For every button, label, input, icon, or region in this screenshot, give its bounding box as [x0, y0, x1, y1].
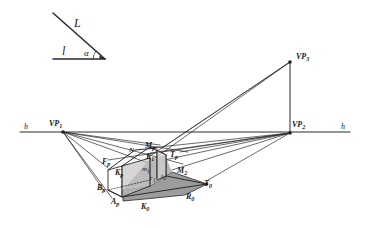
label-R0: R0: [185, 192, 194, 202]
label-T0: T0: [204, 179, 212, 189]
label-M: Mp: [144, 141, 155, 151]
perspective-diagram: L l α h h VP1 VP2 VP3: [0, 0, 366, 228]
label-L: L: [73, 16, 81, 30]
vanishing-point-3: VP3: [288, 52, 309, 64]
svg-text:VP1: VP1: [49, 119, 62, 129]
label-M2: M2: [176, 166, 187, 176]
label-B: Bp: [96, 183, 105, 193]
horizon-label-right: h: [341, 122, 345, 131]
label-K0: K0: [140, 202, 149, 212]
svg-text:VP2: VP2: [292, 120, 305, 130]
vanishing-point-2: VP2: [288, 120, 305, 135]
label-alpha: α: [84, 48, 89, 58]
light-direction-indicator: L l α: [53, 13, 106, 59]
label-F: Fp: [101, 157, 110, 167]
label-l: l: [62, 44, 66, 58]
angle-arc: [93, 51, 96, 59]
label-T-top: Tp: [170, 150, 178, 160]
svg-text:VP3: VP3: [296, 52, 309, 62]
horizon-label-left: h: [24, 122, 28, 131]
label-N: N: [128, 146, 135, 154]
label-A: Ap: [110, 197, 119, 207]
